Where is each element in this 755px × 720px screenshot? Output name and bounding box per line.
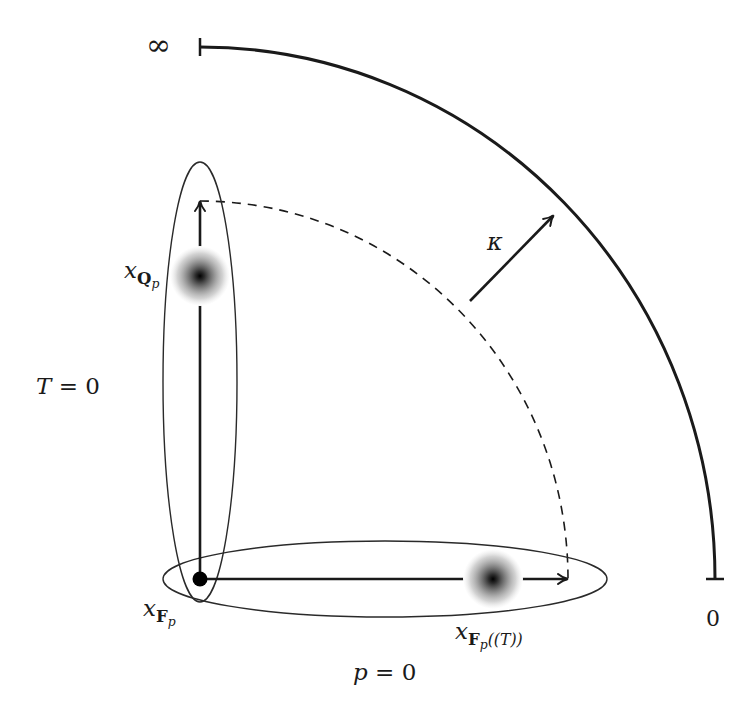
outer-arc [200, 47, 715, 579]
x-FpT-base: x [455, 618, 468, 644]
x-Fp-base: x [143, 595, 156, 621]
x-Qp-label: xQp [124, 259, 159, 282]
t-equals-zero-label: T = 0 [36, 375, 100, 398]
zero-label: 0 [706, 608, 720, 630]
p-variable: p [353, 659, 368, 685]
x-Fp-sub-sub: p [168, 614, 176, 629]
diagram-canvas [0, 0, 755, 720]
x-Qp-sub-sub: p [151, 276, 159, 291]
blob-FpT-shade [463, 549, 523, 609]
p-equals-zero-label: p = 0 [353, 661, 416, 684]
x-FpT-sub-bold: F [468, 629, 480, 649]
x-FpT-label: xFp((T)) [455, 620, 523, 643]
t-equals-text: = 0 [51, 373, 100, 399]
x-FpT-tail: ((T)) [488, 630, 523, 649]
x-Qp-base: x [124, 257, 137, 283]
origin-dot [193, 572, 208, 587]
x-Fp-label: xFp [143, 597, 176, 620]
kappa-arrow [470, 216, 553, 301]
x-Qp-sub-bold: Q [137, 268, 151, 288]
x-FpT-sub-sub: p [480, 637, 488, 652]
infinity-label: ∞ [146, 30, 171, 60]
x-Fp-sub-bold: F [156, 606, 168, 626]
kappa-label: κ [487, 230, 503, 254]
t-variable: T [36, 373, 51, 399]
blob-Qp-shade [170, 246, 230, 306]
p-equals-text: = 0 [368, 659, 417, 685]
